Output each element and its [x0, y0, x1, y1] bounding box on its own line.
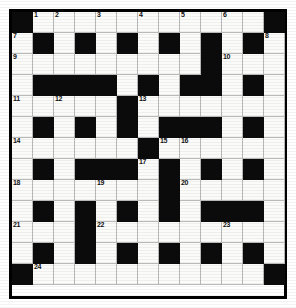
grid-letter-cell[interactable]	[222, 138, 243, 159]
grid-letter-cell[interactable]	[243, 12, 264, 33]
grid-letter-cell[interactable]	[96, 33, 117, 54]
grid-letter-cell[interactable]	[117, 12, 138, 33]
grid-letter-cell[interactable]	[138, 222, 159, 243]
grid-letter-cell[interactable]	[138, 243, 159, 264]
grid-letter-cell[interactable]: 24	[33, 264, 54, 285]
grid-letter-cell[interactable]: 16	[180, 138, 201, 159]
grid-letter-cell[interactable]	[159, 12, 180, 33]
grid-letter-cell[interactable]	[96, 117, 117, 138]
grid-letter-cell[interactable]	[54, 117, 75, 138]
grid-letter-cell[interactable]: 22	[96, 222, 117, 243]
grid-letter-cell[interactable]: 8	[264, 33, 285, 54]
grid-letter-cell[interactable]	[180, 96, 201, 117]
grid-letter-cell[interactable]: 6	[222, 12, 243, 33]
grid-letter-cell[interactable]	[33, 54, 54, 75]
grid-letter-cell[interactable]	[201, 96, 222, 117]
grid-letter-cell[interactable]	[243, 264, 264, 285]
grid-letter-cell[interactable]	[201, 138, 222, 159]
grid-letter-cell[interactable]	[96, 54, 117, 75]
grid-letter-cell[interactable]	[54, 54, 75, 75]
grid-letter-cell[interactable]	[75, 54, 96, 75]
grid-letter-cell[interactable]	[222, 75, 243, 96]
grid-letter-cell[interactable]: 23	[222, 222, 243, 243]
grid-letter-cell[interactable]	[12, 201, 33, 222]
grid-letter-cell[interactable]	[264, 180, 285, 201]
grid-letter-cell[interactable]	[96, 96, 117, 117]
grid-letter-cell[interactable]	[75, 264, 96, 285]
grid-letter-cell[interactable]	[264, 159, 285, 180]
grid-letter-cell[interactable]	[138, 33, 159, 54]
grid-letter-cell[interactable]	[201, 264, 222, 285]
grid-letter-cell[interactable]: 11	[12, 96, 33, 117]
grid-letter-cell[interactable]	[54, 33, 75, 54]
grid-letter-cell[interactable]	[75, 12, 96, 33]
grid-letter-cell[interactable]	[159, 75, 180, 96]
grid-letter-cell[interactable]	[180, 201, 201, 222]
grid-letter-cell[interactable]	[117, 180, 138, 201]
grid-letter-cell[interactable]	[222, 159, 243, 180]
grid-letter-cell[interactable]: 12	[54, 96, 75, 117]
grid-letter-cell[interactable]: 1	[33, 12, 54, 33]
grid-letter-cell[interactable]	[33, 138, 54, 159]
grid-letter-cell[interactable]	[33, 96, 54, 117]
grid-letter-cell[interactable]: 3	[96, 12, 117, 33]
grid-letter-cell[interactable]	[222, 180, 243, 201]
grid-letter-cell[interactable]	[54, 138, 75, 159]
grid-letter-cell[interactable]	[243, 222, 264, 243]
crossword-grid[interactable]: 123456789101112131415161718192021222324	[12, 12, 284, 296]
grid-letter-cell[interactable]	[243, 54, 264, 75]
grid-letter-cell[interactable]	[138, 201, 159, 222]
grid-letter-cell[interactable]	[117, 138, 138, 159]
grid-letter-cell[interactable]	[12, 243, 33, 264]
grid-letter-cell[interactable]	[96, 264, 117, 285]
grid-letter-cell[interactable]	[54, 159, 75, 180]
grid-letter-cell[interactable]	[264, 138, 285, 159]
grid-letter-cell[interactable]: 14	[12, 138, 33, 159]
grid-letter-cell[interactable]: 2	[54, 12, 75, 33]
grid-letter-cell[interactable]	[201, 12, 222, 33]
grid-letter-cell[interactable]	[12, 75, 33, 96]
grid-letter-cell[interactable]	[264, 222, 285, 243]
grid-letter-cell[interactable]	[138, 264, 159, 285]
grid-letter-cell[interactable]: 20	[180, 180, 201, 201]
grid-letter-cell[interactable]	[138, 180, 159, 201]
grid-letter-cell[interactable]	[96, 138, 117, 159]
grid-letter-cell[interactable]	[54, 201, 75, 222]
grid-letter-cell[interactable]	[138, 54, 159, 75]
grid-letter-cell[interactable]	[180, 222, 201, 243]
grid-letter-cell[interactable]	[264, 201, 285, 222]
grid-letter-cell[interactable]: 13	[138, 96, 159, 117]
grid-letter-cell[interactable]	[222, 243, 243, 264]
grid-letter-cell[interactable]	[33, 222, 54, 243]
grid-letter-cell[interactable]: 5	[180, 12, 201, 33]
grid-letter-cell[interactable]	[180, 264, 201, 285]
grid-letter-cell[interactable]	[54, 222, 75, 243]
grid-letter-cell[interactable]	[243, 180, 264, 201]
grid-letter-cell[interactable]	[117, 75, 138, 96]
grid-letter-cell[interactable]	[54, 264, 75, 285]
grid-letter-cell[interactable]	[117, 264, 138, 285]
grid-letter-cell[interactable]	[159, 264, 180, 285]
grid-letter-cell[interactable]	[180, 159, 201, 180]
grid-letter-cell[interactable]	[222, 96, 243, 117]
grid-letter-cell[interactable]	[264, 96, 285, 117]
grid-letter-cell[interactable]	[201, 222, 222, 243]
grid-letter-cell[interactable]	[54, 180, 75, 201]
grid-letter-cell[interactable]	[75, 180, 96, 201]
grid-letter-cell[interactable]	[264, 54, 285, 75]
grid-letter-cell[interactable]: 17	[138, 159, 159, 180]
grid-letter-cell[interactable]	[243, 96, 264, 117]
grid-letter-cell[interactable]	[159, 54, 180, 75]
grid-letter-cell[interactable]: 18	[12, 180, 33, 201]
grid-letter-cell[interactable]: 7	[12, 33, 33, 54]
grid-letter-cell[interactable]	[222, 264, 243, 285]
grid-letter-cell[interactable]	[264, 75, 285, 96]
grid-letter-cell[interactable]	[264, 243, 285, 264]
grid-letter-cell[interactable]: 10	[222, 54, 243, 75]
grid-letter-cell[interactable]	[117, 54, 138, 75]
grid-letter-cell[interactable]	[243, 138, 264, 159]
grid-letter-cell[interactable]: 19	[96, 180, 117, 201]
grid-letter-cell[interactable]	[117, 222, 138, 243]
grid-letter-cell[interactable]	[180, 54, 201, 75]
grid-letter-cell[interactable]	[264, 117, 285, 138]
